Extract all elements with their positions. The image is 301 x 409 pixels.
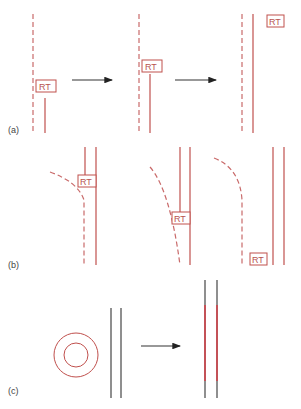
panel-b-step-1: RT	[50, 147, 96, 265]
rt-label: RT	[252, 255, 264, 265]
panel-b: RT RT RT (b)	[8, 147, 284, 270]
rt-label: RT	[174, 214, 186, 224]
displaced-strand-dashed	[214, 158, 242, 265]
panel-label-c: (c)	[8, 386, 19, 396]
panel-b-step-2: RT	[150, 147, 190, 265]
panel-b-step-3: RT	[214, 147, 284, 265]
panel-a-step-2: RT	[139, 14, 162, 133]
rt-label: RT	[80, 177, 92, 187]
rt-label: RT	[39, 82, 51, 92]
figure-canvas: RT RT RT (a) RT	[0, 0, 301, 409]
panel-c: (c)	[8, 280, 217, 398]
circular-dna-inner	[64, 343, 88, 367]
panel-a-step-3: RT	[242, 14, 284, 133]
rt-label: RT	[145, 62, 157, 72]
rt-label: RT	[269, 17, 281, 27]
panel-a: RT RT RT (a)	[8, 14, 284, 135]
circular-dna-outer	[54, 333, 98, 377]
integrated-dna	[205, 280, 217, 398]
panel-label-b: (b)	[8, 260, 19, 270]
panel-label-a: (a)	[8, 125, 19, 135]
panel-a-step-1: RT	[33, 14, 56, 133]
